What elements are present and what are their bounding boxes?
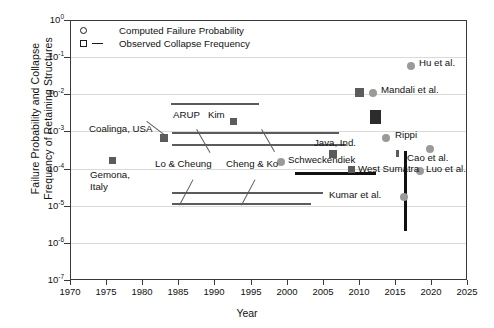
x-tick-label: 2010 [348, 286, 369, 297]
annotation-arup: ARUP [173, 109, 200, 120]
figure: Failure Probability and CollapseFrequenc… [0, 0, 494, 328]
marker-kim[interactable] [230, 118, 237, 125]
marker-mandali[interactable] [369, 89, 377, 97]
annotation-hu: Hu et al. [419, 57, 455, 68]
legend-entry-computed: Computed Failure Probability [77, 24, 250, 37]
marker-observed-2012[interactable] [370, 110, 381, 124]
legend-label-computed: Computed Failure Probability [119, 25, 244, 36]
legend-label-observed: Observed Collapse Frequency [119, 38, 250, 49]
x-tick-label: 2000 [276, 286, 297, 297]
x-tick-label: 1975 [95, 286, 116, 297]
annotation-mandali: Mandali et al. [381, 84, 439, 95]
annotation-java: Java, Ind. [314, 137, 356, 148]
x-tick-label: 2020 [420, 286, 441, 297]
x-tick-label: 1970 [59, 286, 80, 297]
x-tick-label: 1980 [131, 286, 152, 297]
legend-marker-group [77, 40, 119, 47]
x-axis-label: Year [0, 307, 494, 319]
marker-gemona[interactable] [109, 157, 116, 164]
plot-area: ARUP Kim Coalinga, USA Gemona, Italy Lo … [70, 20, 467, 280]
annotation-kumar: Kumar et al. [329, 189, 381, 200]
annotation-cheng-ko: Cheng & Ko [226, 158, 278, 169]
gridline [71, 206, 466, 207]
legend-marker-group [77, 27, 119, 34]
gridline [71, 57, 466, 58]
x-tick-label: 1985 [167, 286, 188, 297]
annotation-luo: Luo et al. [426, 163, 466, 174]
open-square-icon [80, 40, 87, 47]
annotation-coalinga: Coalinga, USA [89, 123, 153, 134]
line-segment-icon [92, 43, 103, 45]
legend: Computed Failure Probability Observed Co… [77, 24, 250, 50]
marker-rippi[interactable] [382, 134, 390, 142]
x-tick-label: 1990 [203, 286, 224, 297]
annotation-lo-cheung: Lo & Cheung [155, 158, 212, 169]
legend-entry-observed: Observed Collapse Frequency [77, 37, 250, 50]
annotation-rippi: Rippi [395, 129, 417, 140]
x-tick-label: 2015 [384, 286, 405, 297]
marker-west-sumatra[interactable] [348, 166, 355, 173]
gridline [71, 243, 466, 244]
annotation-cao: Cao et al. [407, 152, 448, 163]
marker-kumar[interactable] [400, 193, 408, 201]
open-circle-icon [80, 27, 87, 34]
marker-coalinga[interactable] [160, 134, 168, 142]
marker-cao-tick[interactable] [396, 150, 399, 157]
annotation-schweckendiek: Schweckendiek [288, 154, 355, 165]
marker-hu[interactable] [407, 62, 415, 70]
x-tick-label: 2005 [312, 286, 333, 297]
annotation-kim: Kim [208, 109, 225, 120]
annotation-gemona: Gemona, Italy [90, 169, 130, 192]
x-tick-label: 1995 [240, 286, 261, 297]
x-tick-label: 2025 [456, 286, 477, 297]
range-line-arup [171, 103, 259, 105]
marker-observed-2010[interactable] [355, 88, 364, 97]
annotation-west-sumatra: West Sumatra [358, 163, 419, 174]
